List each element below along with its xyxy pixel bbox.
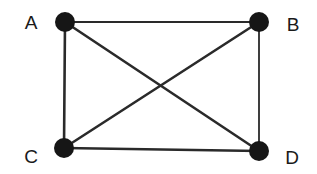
graph-diagram: A B C D bbox=[0, 0, 317, 174]
node-b bbox=[249, 12, 269, 32]
node-label-c: C bbox=[24, 146, 38, 167]
node-d bbox=[249, 141, 269, 161]
edges bbox=[64, 22, 259, 151]
node-a bbox=[55, 12, 75, 32]
node-c bbox=[54, 138, 74, 158]
node-label-a: A bbox=[25, 12, 38, 33]
edge-c-d bbox=[64, 148, 259, 151]
node-label-d: D bbox=[285, 147, 299, 168]
node-label-b: B bbox=[287, 14, 300, 35]
edge-a-c bbox=[64, 22, 65, 148]
